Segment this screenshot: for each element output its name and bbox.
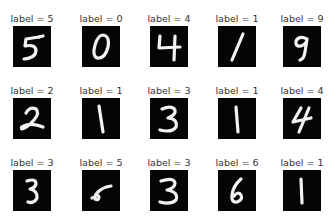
handwritten-3-icon [17,174,47,208]
sample-label: label = 1 [203,13,271,25]
sample-cell-13: label = 3 [149,157,189,217]
sample-label: label = 3 [135,157,203,169]
digit-image-1 [283,170,321,211]
digit-image-1 [82,98,120,139]
handwritten-1-icon [222,102,252,136]
digit-image-1 [218,98,256,139]
sample-label: label = 5 [67,157,135,169]
sample-cell-10: label = 4 [282,85,322,145]
digit-image-4 [283,98,321,139]
handwritten-5-icon [17,30,47,64]
sample-label: label = 1 [203,85,271,97]
digit-image-3 [150,170,188,211]
handwritten-9-icon [287,30,317,64]
digit-image-5 [13,26,51,67]
handwritten-1-icon [287,174,317,208]
handwritten-4-icon [287,102,317,136]
sample-cell-11: label = 3 [12,157,52,217]
sample-cell-6: label = 2 [12,85,52,145]
sample-label: label = 6 [203,157,271,169]
sample-label: label = 4 [135,13,203,25]
sample-label: label = 3 [0,157,66,169]
sample-cell-1: label = 5 [12,13,52,73]
sample-cell-2: label = 0 [81,13,121,73]
digit-image-6 [218,170,256,211]
handwritten-5-icon [86,174,116,208]
sample-cell-7: label = 1 [81,85,121,145]
digit-image-9 [283,26,321,67]
digit-image-0 [82,26,120,67]
digit-image-2 [13,98,51,139]
handwritten-6-icon [222,174,252,208]
sample-cell-8: label = 3 [149,85,189,145]
digit-image-4 [150,26,188,67]
handwritten-0-icon [86,30,116,64]
handwritten-1-icon [222,30,252,64]
sample-label: label = 0 [67,13,135,25]
sample-label: label = 3 [135,85,203,97]
sample-label: label = 4 [268,85,335,97]
digit-image-3 [150,98,188,139]
digit-image-5 [82,170,120,211]
digit-image-1 [218,26,256,67]
handwritten-2-icon [17,102,47,136]
handwritten-4-icon [154,30,184,64]
sample-label: label = 1 [268,157,335,169]
handwritten-1-icon [86,102,116,136]
sample-cell-5: label = 9 [282,13,322,73]
sample-cell-12: label = 5 [81,157,121,217]
sample-cell-3: label = 4 [149,13,189,73]
digit-image-3 [13,170,51,211]
handwritten-3-icon [154,102,184,136]
sample-cell-14: label = 6 [217,157,257,217]
sample-label: label = 1 [67,85,135,97]
handwritten-3-icon [154,174,184,208]
sample-cell-4: label = 1 [217,13,257,73]
sample-cell-15: label = 1 [282,157,322,217]
sample-label: label = 5 [0,13,66,25]
sample-cell-9: label = 1 [217,85,257,145]
sample-label: label = 2 [0,85,66,97]
sample-label: label = 9 [268,13,335,25]
